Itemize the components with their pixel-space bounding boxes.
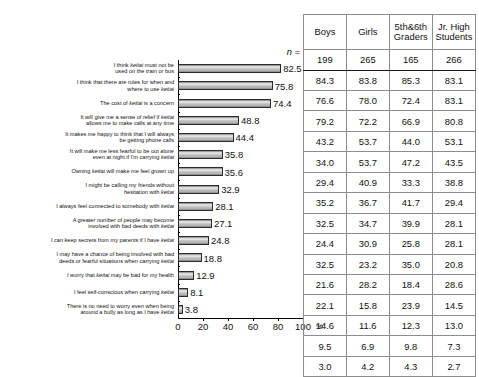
- table-row: 32.523.235.020.8: [304, 254, 476, 274]
- y-axis-minor-tick: [178, 249, 180, 250]
- table-cell: 2.7: [432, 356, 475, 376]
- table-cell: 24.4: [304, 234, 347, 254]
- bar-value-label: 35.8: [225, 150, 244, 160]
- table-sample-size-row: 199265165266: [304, 50, 476, 71]
- table-cell: 72.2: [346, 111, 389, 131]
- table-cell: 34.0: [304, 152, 347, 172]
- bar-value-label: 3.8: [185, 305, 198, 315]
- table-row: 34.053.747.243.5: [304, 152, 476, 172]
- table-cell: 35.0: [389, 254, 432, 274]
- table-cell: 47.2: [389, 152, 432, 172]
- table-cell: 4.3: [389, 356, 432, 376]
- category-label: I worry that keitai may be bad for my he…: [67, 272, 174, 278]
- table-row: 29.440.933.338.8: [304, 172, 476, 192]
- category-label: It will give me a sense of relief if kei…: [80, 114, 174, 127]
- category-label: I can keep secrets from my parents if I …: [51, 237, 174, 243]
- table-cell: 14.6: [304, 315, 347, 335]
- category-label: The cost of keitai is a concern: [100, 100, 174, 106]
- bar: [178, 202, 213, 211]
- bar: [178, 288, 188, 297]
- table-column-header: Jr. HighStudents: [432, 15, 475, 50]
- table-cell: 36.7: [346, 193, 389, 213]
- table-cell: 14.5: [432, 295, 475, 315]
- y-axis-minor-tick: [178, 129, 180, 130]
- y-axis-minor-tick: [178, 198, 180, 199]
- y-axis-minor-tick: [178, 94, 180, 95]
- category-label: I may have a chance of being involved wi…: [56, 251, 174, 264]
- table-cell: 20.8: [432, 254, 475, 274]
- bar-value-label: 8.1: [190, 288, 203, 298]
- table-cell-n: 165: [389, 50, 432, 71]
- category-label: It makes me happy to think that I will a…: [65, 131, 174, 144]
- y-axis-minor-tick: [178, 146, 180, 147]
- table-cell: 41.7: [389, 193, 432, 213]
- bar: [178, 133, 234, 142]
- category-label: There is no need to worry even when bein…: [67, 303, 174, 316]
- sample-size-label: n =: [252, 46, 300, 57]
- table-cell: 40.9: [346, 172, 389, 192]
- x-axis-line: [178, 318, 303, 319]
- bar-value-label: 74.4: [273, 99, 292, 109]
- table-cell: 85.3: [389, 70, 432, 90]
- table-cell: 29.4: [432, 193, 475, 213]
- table-row: 76.678.072.483.1: [304, 91, 476, 111]
- table-cell: 84.3: [304, 70, 347, 90]
- category-label: Owning keitai will make me feel grown up: [71, 168, 174, 174]
- bar: [178, 305, 183, 314]
- table-cell: 4.2: [346, 356, 389, 376]
- table-cell: 80.8: [432, 111, 475, 131]
- y-axis-minor-tick: [178, 180, 180, 181]
- bar-value-label: 18.8: [204, 254, 223, 264]
- bar: [178, 116, 239, 125]
- table-cell: 7.3: [432, 336, 475, 356]
- table-cell: 53.7: [346, 131, 389, 151]
- y-axis-minor-tick: [178, 266, 180, 267]
- table-column-header: Boys: [304, 15, 347, 50]
- table-cell: 3.0: [304, 356, 347, 376]
- table-row: 3.04.24.32.7: [304, 356, 476, 376]
- table-cell: 32.5: [304, 213, 347, 233]
- bar-value-label: 82.5: [283, 64, 302, 74]
- table-cell: 83.8: [346, 70, 389, 90]
- table-cell: 79.2: [304, 111, 347, 131]
- bar: [178, 99, 271, 108]
- table-cell: 43.5: [432, 152, 475, 172]
- table-row: 43.253.744.053.1: [304, 131, 476, 151]
- plot-area: 82.575.874.448.844.435.835.632.928.127.1…: [178, 60, 303, 318]
- data-table: BoysGirls5th&6thGradersJr. HighStudents …: [303, 14, 476, 377]
- table-cell: 12.3: [389, 315, 432, 335]
- table-cell: 28.2: [346, 274, 389, 294]
- bar: [178, 219, 212, 228]
- category-label: I might be calling my friends withouthes…: [85, 182, 174, 195]
- category-label: A greater number of people may becomeinv…: [73, 217, 174, 230]
- table-cell: 66.9: [389, 111, 432, 131]
- bar-value-label: 24.8: [211, 236, 230, 246]
- table-cell: 18.4: [389, 274, 432, 294]
- table-cell: 39.9: [389, 213, 432, 233]
- table-cell: 53.1: [432, 131, 475, 151]
- bar-value-label: 35.6: [225, 168, 244, 178]
- bar: [178, 236, 209, 245]
- table-cell-n: 199: [304, 50, 347, 71]
- table-cell: 21.6: [304, 274, 347, 294]
- y-axis-minor-tick: [178, 215, 180, 216]
- y-axis-minor-tick: [178, 77, 180, 78]
- table-cell: 72.4: [389, 91, 432, 111]
- table-cell: 30.9: [346, 234, 389, 254]
- y-axis-minor-tick: [178, 112, 180, 113]
- table-row: 21.628.218.428.6: [304, 274, 476, 294]
- table-cell-n: 265: [346, 50, 389, 71]
- table-cell: 29.4: [304, 172, 347, 192]
- table-cell-n: 266: [432, 50, 475, 71]
- x-axis-tick-label: 20: [198, 322, 209, 332]
- bar-value-label: 44.4: [236, 133, 255, 143]
- table-row: 79.272.266.980.8: [304, 111, 476, 131]
- y-axis-minor-tick: [178, 232, 180, 233]
- table-row: 32.534.739.928.1: [304, 213, 476, 233]
- x-axis-tick-label: 0: [175, 322, 180, 332]
- x-axis-tick-label: 60: [248, 322, 259, 332]
- table-cell: 32.5: [304, 254, 347, 274]
- table-column-header: Girls: [346, 15, 389, 50]
- y-axis-minor-tick: [178, 301, 180, 302]
